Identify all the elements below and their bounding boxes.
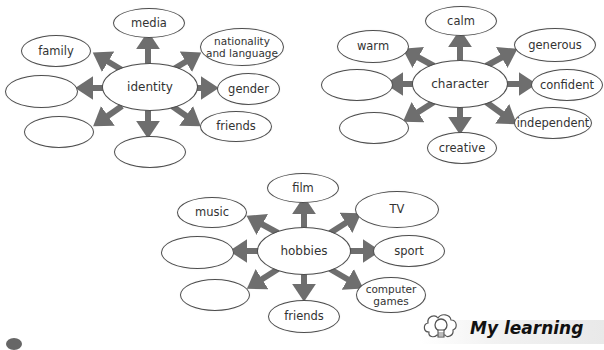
node-label: calm [447, 15, 475, 28]
node-label: nationality and language [206, 35, 278, 59]
hobbies-node-friends[interactable]: friends [268, 300, 340, 333]
hobbies-node-bottom-left-blank[interactable] [180, 279, 250, 311]
character-node-generous[interactable]: generous [514, 28, 596, 62]
lightbulb-icon [423, 312, 459, 344]
identity-node-bottom-left-blank[interactable] [24, 116, 94, 148]
node-label: sport [394, 245, 424, 258]
node-label: family [38, 45, 74, 58]
hobbies-node-computer-games[interactable]: computer games [356, 277, 426, 313]
character-node-calm[interactable]: calm [425, 6, 497, 36]
node-label: music [195, 206, 229, 219]
node-label: media [131, 17, 167, 30]
node-label: generous [528, 39, 582, 52]
character-node-left-blank[interactable] [321, 69, 393, 101]
identity-node-left-blank[interactable] [5, 75, 78, 108]
node-label: character [431, 78, 488, 91]
character-node-bottom-left-blank[interactable] [339, 112, 409, 144]
node-label: film [292, 182, 314, 195]
hobbies-center-node: hobbies [257, 227, 351, 275]
character-node-confident[interactable]: confident [531, 69, 603, 101]
character-node-independent[interactable]: independent [514, 107, 592, 139]
node-label: gender [228, 83, 269, 96]
character-node-creative[interactable]: creative [427, 132, 497, 164]
character-node-warm[interactable]: warm [337, 30, 409, 63]
identity-node-friends[interactable]: friends [200, 111, 272, 142]
hobbies-node-tv[interactable]: TV [355, 191, 439, 228]
node-label: friends [216, 120, 256, 133]
node-label: friends [284, 310, 324, 323]
node-label: confident [540, 79, 594, 92]
identity-center-node: identity [102, 63, 198, 111]
node-label: TV [390, 203, 405, 216]
identity-node-family[interactable]: family [21, 35, 91, 67]
my-learning-title: My learning [470, 318, 583, 338]
node-label: independent [517, 117, 590, 130]
identity-node-nationality-language[interactable]: nationality and language [200, 28, 284, 66]
hobbies-node-music[interactable]: music [177, 197, 247, 228]
node-label: warm [357, 40, 389, 53]
identity-node-media[interactable]: media [113, 8, 185, 38]
hobbies-node-sport[interactable]: sport [373, 235, 445, 267]
page-corner-mark [6, 338, 22, 350]
identity-node-bottom-blank[interactable] [114, 136, 186, 168]
hobbies-node-film[interactable]: film [267, 173, 339, 203]
node-label: hobbies [280, 245, 327, 258]
character-center-node: character [412, 60, 508, 108]
hobbies-node-left-blank[interactable] [161, 236, 234, 269]
node-label: identity [127, 81, 173, 94]
node-label: computer games [366, 283, 417, 307]
node-label: creative [439, 142, 486, 155]
identity-node-gender[interactable]: gender [217, 73, 280, 105]
